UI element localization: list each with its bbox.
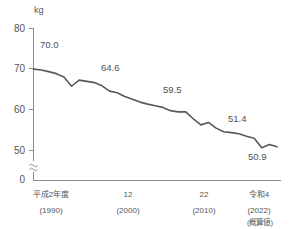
- x-tick-label-2022: 令和4: [212, 191, 290, 199]
- data-series-line: [34, 69, 278, 147]
- y-tick-label-0: 0: [3, 175, 25, 185]
- line-chart: kg 80 70 60 50 0 平成2年度 (1990) 12 (2000) …: [0, 0, 290, 229]
- footnote-preliminary: (概算値): [232, 219, 288, 227]
- y-tick-label-70: 70: [3, 64, 25, 74]
- data-label-1990: 70.0: [40, 40, 59, 50]
- y-axis-unit-label: kg: [34, 6, 44, 15]
- y-tick-label-50: 50: [3, 146, 25, 156]
- axis-break-icon: [30, 164, 38, 171]
- y-tick-label-60: 60: [3, 105, 25, 115]
- y-tick-label-80: 80: [3, 24, 25, 34]
- data-label-2010: 59.5: [163, 85, 182, 95]
- x-tick-sublabel-2022: (2022): [212, 207, 290, 215]
- data-label-2022: 50.9: [248, 152, 267, 162]
- data-label-2020: 51.4: [228, 114, 247, 124]
- data-label-2000: 64.6: [101, 63, 120, 73]
